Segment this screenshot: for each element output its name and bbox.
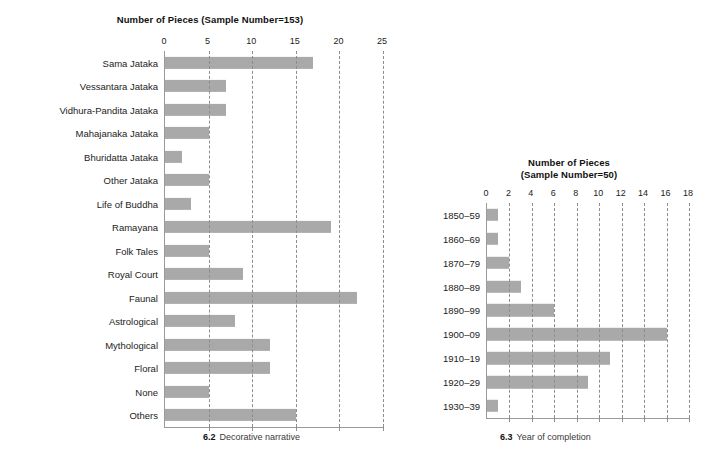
chart-year-of-completion: Number of Pieces (Sample Number=50) 0246…: [420, 0, 718, 467]
chart-right-title-line2: (Sample Number=50): [420, 169, 718, 181]
x-tick-label: 14: [638, 188, 648, 198]
bar-row: Bhuridatta Jataka: [165, 145, 383, 169]
x-tick-label: 10: [593, 188, 603, 198]
bar: [165, 151, 182, 163]
chart-left-title: Number of Pieces (Sample Number=153): [0, 14, 420, 26]
bar-row: Royal Court: [165, 263, 383, 287]
bar-row: Mahajanaka Jataka: [165, 122, 383, 146]
bar: [165, 174, 209, 186]
category-label: Sama Jataka: [103, 57, 165, 68]
category-label: 1890–99: [443, 305, 487, 316]
x-tick-mark: [599, 418, 600, 422]
bar: [165, 245, 209, 257]
bar-row: Faunal: [165, 286, 383, 310]
x-tick-mark: [252, 427, 253, 431]
category-label: 1920–29: [443, 377, 487, 388]
chart-left-x-axis: 0510152025: [164, 36, 382, 51]
x-tick-label: 8: [573, 188, 578, 198]
category-label: Other Jataka: [104, 175, 165, 186]
x-tick-mark: [644, 418, 645, 422]
gridline: [622, 203, 623, 418]
bar: [165, 409, 296, 421]
chart-left-plot: Sama JatakaVessantara JatakaVidhura-Pand…: [164, 51, 383, 428]
bar-row: 1880–89: [487, 275, 689, 299]
category-label: Folk Tales: [115, 245, 165, 256]
x-tick-label: 6: [551, 188, 556, 198]
bar: [165, 80, 226, 92]
bar: [165, 221, 331, 233]
bar-row: 1890–99: [487, 299, 689, 323]
bar-row: 1860–69: [487, 227, 689, 251]
bar-row: 1920–29: [487, 370, 689, 394]
category-label: Astrological: [109, 316, 165, 327]
bar: [165, 339, 270, 351]
x-tick-mark: [509, 418, 510, 422]
bar-row: Folk Tales: [165, 239, 383, 263]
bar-row: Life of Buddha: [165, 192, 383, 216]
category-label: Floral: [134, 363, 165, 374]
caption-6-3-number: 6.3: [500, 432, 513, 442]
x-tick-label: 20: [333, 36, 343, 46]
bar: [487, 352, 610, 364]
gridline: [644, 203, 645, 418]
gridline: [509, 203, 510, 418]
caption-6-3-text: Year of completion: [517, 432, 591, 442]
x-tick-mark: [622, 418, 623, 422]
category-label: 1910–19: [443, 353, 487, 364]
caption-6-2: 6.2Decorative narrative: [203, 432, 300, 442]
category-label: Vessantara Jataka: [80, 81, 165, 92]
chart-right-plot-area: 024681012141618 1850–591860–691870–79188…: [486, 188, 688, 419]
chart-right-plot: 1850–591860–691870–791880–891890–991900–…: [486, 203, 689, 419]
bar-row: 1870–79: [487, 251, 689, 275]
category-label: 1900–09: [443, 329, 487, 340]
x-tick-label: 2: [506, 188, 511, 198]
bar: [487, 376, 588, 388]
chart-left-bars: Sama JatakaVessantara JatakaVidhura-Pand…: [165, 51, 383, 427]
x-tick-mark: [532, 418, 533, 422]
x-tick-label: 5: [205, 36, 210, 46]
gridline: [577, 203, 578, 418]
category-label: Faunal: [129, 292, 165, 303]
bar: [165, 386, 209, 398]
bar: [487, 233, 498, 245]
x-tick-mark: [209, 427, 210, 431]
bar: [165, 104, 226, 116]
caption-6-3: 6.3Year of completion: [500, 432, 591, 442]
gridline: [689, 203, 690, 418]
bar-row: 1900–09: [487, 322, 689, 346]
bar: [165, 57, 313, 69]
x-tick-mark: [339, 427, 340, 431]
gridline: [383, 51, 384, 427]
x-tick-label: 10: [246, 36, 256, 46]
bar-row: Vessantara Jataka: [165, 75, 383, 99]
category-label: Mahajanaka Jataka: [76, 128, 165, 139]
x-tick-mark: [689, 418, 690, 422]
bar-row: None: [165, 380, 383, 404]
x-tick-mark: [667, 418, 668, 422]
x-tick-mark: [554, 418, 555, 422]
bar: [487, 256, 509, 268]
category-label: Royal Court: [108, 269, 165, 280]
category-label: Ramayana: [112, 222, 165, 233]
chart-right-bars: 1850–591860–691870–791880–891890–991900–…: [487, 203, 689, 418]
gridline: [532, 203, 533, 418]
category-label: 1870–79: [443, 257, 487, 268]
caption-6-2-text: Decorative narrative: [220, 432, 301, 442]
x-tick-label: 0: [161, 36, 166, 46]
bar-row: Floral: [165, 357, 383, 381]
gridline: [252, 51, 253, 427]
x-tick-label: 0: [483, 188, 488, 198]
category-label: None: [135, 386, 165, 397]
x-tick-mark: [577, 418, 578, 422]
x-tick-label: 12: [616, 188, 626, 198]
bar-row: Astrological: [165, 310, 383, 334]
category-label: 1860–69: [443, 233, 487, 244]
chart-right-title-line1: Number of Pieces: [420, 157, 718, 169]
chart-right-x-axis: 024681012141618: [486, 188, 688, 203]
category-label: 1880–89: [443, 281, 487, 292]
category-label: 1930–39: [443, 401, 487, 412]
bar: [487, 400, 498, 412]
chart-right-title: Number of Pieces (Sample Number=50): [420, 157, 718, 181]
x-tick-label: 16: [661, 188, 671, 198]
bar: [165, 268, 243, 280]
